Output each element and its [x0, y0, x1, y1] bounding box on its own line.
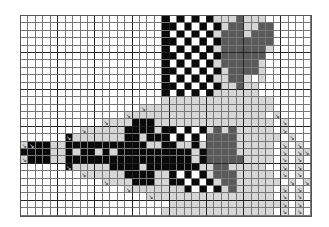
arrow-mark-icon: ↘ — [274, 112, 281, 119]
grid-cell — [304, 60, 311, 67]
grid-cell — [95, 23, 102, 30]
grid-cell — [118, 53, 125, 60]
grid-cell — [192, 134, 199, 141]
grid-cell — [237, 97, 244, 104]
grid-cell — [170, 90, 177, 97]
grid-cell — [289, 105, 296, 112]
grid-cell — [73, 53, 80, 60]
grid-cell — [36, 83, 43, 90]
arrow-mark-icon: ↘ — [281, 193, 288, 200]
grid-cell — [103, 90, 110, 97]
grid-cell — [259, 156, 266, 163]
grid-cell — [185, 97, 192, 104]
grid-cell — [147, 68, 154, 75]
grid-cell — [185, 68, 192, 75]
grid-cell — [147, 38, 154, 45]
grid-cell — [177, 164, 184, 171]
grid-cell — [133, 38, 140, 45]
grid-cell — [289, 171, 296, 178]
grid-cell — [58, 208, 65, 215]
grid-cell — [229, 164, 236, 171]
grid-cell — [192, 186, 199, 193]
grid-cell — [207, 83, 214, 90]
grid-cell — [237, 31, 244, 38]
grid-cell — [244, 90, 251, 97]
grid-cell — [266, 105, 273, 112]
grid-cell — [73, 179, 80, 186]
grid-cell — [200, 97, 207, 104]
grid-cell — [214, 75, 221, 82]
grid-cell — [244, 164, 251, 171]
grid-cell — [95, 186, 102, 193]
grid-cell — [28, 201, 35, 208]
grid-cell — [222, 127, 229, 134]
grid-cell — [162, 83, 169, 90]
grid-cell — [81, 119, 88, 126]
grid-cell — [66, 53, 73, 60]
grid-cell — [28, 171, 35, 178]
arrow-mark-icon: ↘ — [103, 179, 110, 186]
grid-cell — [200, 171, 207, 178]
grid-cell — [177, 127, 184, 134]
grid-cell — [66, 112, 73, 119]
grid-cell — [36, 112, 43, 119]
grid-cell — [304, 53, 311, 60]
grid-cell — [192, 16, 199, 23]
grid-cell — [66, 149, 73, 156]
grid-cell — [110, 38, 117, 45]
grid-cell — [200, 119, 207, 126]
grid-cell — [140, 179, 147, 186]
grid-cell — [51, 90, 58, 97]
grid-cell — [185, 60, 192, 67]
grid-cell — [281, 105, 288, 112]
grid-cell — [214, 193, 221, 200]
arrow-mark-icon: ↘ — [281, 119, 288, 126]
grid-cell — [177, 31, 184, 38]
grid-cell — [214, 149, 221, 156]
grid-cell — [140, 75, 147, 82]
grid-cell — [133, 127, 140, 134]
grid-cell — [110, 46, 117, 53]
grid-cell — [281, 31, 288, 38]
grid-cell — [289, 208, 296, 215]
grid-cell — [237, 186, 244, 193]
grid-cell — [118, 171, 125, 178]
grid-cell — [237, 68, 244, 75]
grid-cell — [162, 112, 169, 119]
grid-cell — [170, 16, 177, 23]
grid-cell — [155, 97, 162, 104]
grid-cell — [110, 119, 117, 126]
grid-cell — [289, 90, 296, 97]
grid-cell — [73, 23, 80, 30]
grid-cell — [304, 105, 311, 112]
grid-cell — [133, 23, 140, 30]
grid-cell — [170, 75, 177, 82]
grid-cell — [66, 179, 73, 186]
grid-cell — [110, 149, 117, 156]
grid-cell — [43, 97, 50, 104]
grid-cell — [73, 186, 80, 193]
grid-cell — [28, 38, 35, 45]
grid-cell — [214, 164, 221, 171]
grid-cell — [51, 38, 58, 45]
grid-cell — [133, 46, 140, 53]
grid-cell — [170, 142, 177, 149]
grid-cell — [229, 68, 236, 75]
grid-cell — [88, 53, 95, 60]
grid-cell — [147, 134, 154, 141]
grid-cell — [125, 171, 132, 178]
grid-cell — [177, 68, 184, 75]
grid-cell — [185, 46, 192, 53]
grid-cell — [103, 16, 110, 23]
grid-cell — [192, 164, 199, 171]
arrow-mark-icon: ↘ — [289, 179, 296, 186]
grid-row — [21, 75, 311, 82]
grid-cell — [259, 83, 266, 90]
grid-cell — [21, 149, 28, 156]
grid-cell — [177, 60, 184, 67]
arrow-mark-icon: ↘ — [296, 201, 303, 208]
grid-cell — [147, 16, 154, 23]
grid-cell — [43, 112, 50, 119]
grid-cell — [155, 208, 162, 215]
grid-cell — [140, 193, 147, 200]
